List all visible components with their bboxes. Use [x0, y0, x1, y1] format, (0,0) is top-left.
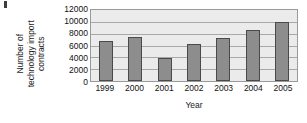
y-axis-tick-labels: 020004000600080001000012000: [52, 9, 90, 82]
x-axis-tick-label: 2002: [180, 83, 207, 93]
y-axis-tick-label: 0: [83, 78, 88, 87]
bar-2004: [246, 30, 260, 81]
x-axis-tick-label: 1999: [91, 83, 118, 93]
x-axis-tick-label: 2004: [240, 83, 267, 93]
x-axis-tick-label: 2003: [210, 83, 237, 93]
x-axis-tick-label: 2001: [151, 83, 178, 93]
y-axis-title-line-3: contracts: [36, 20, 47, 87]
plot-area: [90, 9, 298, 82]
x-axis-tick-label: 2000: [121, 83, 148, 93]
y-axis-tick-label: 6000: [69, 41, 88, 50]
x-axis-tick-labels: 1999200020012002200320042005: [90, 83, 298, 96]
x-axis-tick-label: 2005: [270, 83, 297, 93]
bar-1999: [99, 41, 113, 81]
y-axis-title-line-1: Number of: [15, 20, 26, 87]
bar-2000: [128, 37, 142, 81]
bar-2001: [158, 58, 172, 81]
y-axis-tick-label: 2000: [69, 65, 88, 74]
y-axis-tick-label: 4000: [69, 53, 88, 62]
bar-2003: [216, 38, 230, 81]
bar-chart-figure: Number of technology import contracts 02…: [0, 0, 307, 123]
y-axis-tick-label: 12000: [64, 5, 88, 14]
y-axis-tick-label: 8000: [69, 29, 88, 38]
y-axis-title: Number of technology import contracts: [4, 4, 58, 104]
y-axis-title-line-2: technology import: [26, 20, 37, 87]
x-axis-title: Year: [90, 100, 298, 110]
bar-series: [91, 10, 297, 81]
bar-2005: [275, 22, 289, 81]
y-axis-tick-label: 10000: [64, 17, 88, 26]
bar-2002: [187, 44, 201, 81]
